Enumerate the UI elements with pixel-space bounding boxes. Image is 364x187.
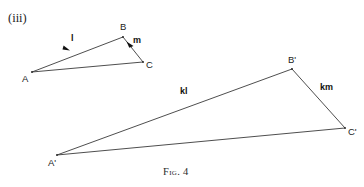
vertex-dot-a-prime xyxy=(56,154,58,156)
vertex-label-a: A xyxy=(22,74,28,84)
vector-m-symbol: m xyxy=(133,35,141,45)
vertex-dot-c-prime xyxy=(344,127,346,129)
figure-caption-number: 4 xyxy=(183,166,189,177)
vertex-label-a-prime: A' xyxy=(48,158,56,168)
vector-label-m: m xyxy=(133,36,141,45)
vertex-label-b: B xyxy=(120,22,126,32)
vertex-label-c-prime: C' xyxy=(348,127,357,137)
vector-kl-symbol: l xyxy=(185,86,188,96)
vertex-dot-b xyxy=(122,36,124,38)
part-label: (iii) xyxy=(8,12,27,25)
edge-a-prime-to-c-prime xyxy=(57,128,345,155)
edge-a-to-b xyxy=(32,37,123,72)
vector-label-kl: kl xyxy=(180,87,188,96)
small-triangle-group xyxy=(31,36,144,73)
vector-l-symbol: l xyxy=(71,33,74,43)
figure-container: (iii) A B C l m A' B' C' kl km Fig. 4 xyxy=(0,0,364,187)
edge-b-prime-to-c-prime xyxy=(292,69,345,128)
arrowhead-vector-l xyxy=(63,46,71,51)
figure-caption: Fig. 4 xyxy=(163,167,189,178)
vector-km-symbol: m xyxy=(325,82,333,92)
vertex-label-b-prime: B' xyxy=(288,55,296,65)
vector-label-l: l xyxy=(71,34,74,43)
large-triangle-group xyxy=(56,68,346,156)
edge-a-to-c xyxy=(32,62,143,72)
edge-a-prime-to-b-prime xyxy=(57,69,292,155)
vertex-dot-a xyxy=(31,71,33,73)
figure-caption-prefix: Fig. xyxy=(163,166,180,177)
vector-label-km: km xyxy=(320,83,333,92)
vertex-dot-c xyxy=(142,61,144,63)
vertex-dot-b-prime xyxy=(291,68,293,70)
vertex-label-c: C xyxy=(146,60,153,70)
